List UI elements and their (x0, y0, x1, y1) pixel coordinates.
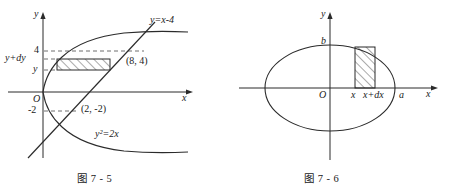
parabola-equation-label: y²=2x (95, 129, 119, 139)
line-y-equals-x-minus-4 (28, 22, 155, 158)
point-2-minus-2-label: (2, -2) (81, 104, 106, 114)
figure-pair: y x O 4 y+dy y -2 y=x-4 y²=2x (8, 4) (2,… (0, 0, 451, 193)
point-8-4-label: (8, 4) (126, 56, 148, 66)
figure-7-6: y x O b a x x+dx 图 7 - 6 (225, 0, 451, 193)
origin-label: O (319, 90, 326, 100)
y-axis (327, 12, 332, 160)
x-tick-a: a (399, 90, 404, 100)
y-tick-b: b (321, 36, 326, 46)
x-axis-label: x (182, 93, 186, 103)
y-axis-label: y (321, 9, 325, 19)
x-tick-x-plus-dx: x+dx (363, 90, 384, 100)
y-tick-4: 4 (34, 45, 39, 55)
hatched-strip-vertical (355, 47, 375, 88)
origin-label: O (33, 94, 40, 104)
figure-7-5: y x O 4 y+dy y -2 y=x-4 y²=2x (8, 4) (2,… (0, 0, 225, 193)
y-tick-y-plus-dy: y+dy (5, 53, 26, 63)
x-tick-x: x (351, 90, 355, 100)
y-tick-y: y (33, 64, 37, 74)
x-axis-label: x (426, 89, 430, 99)
line-equation-label: y=x-4 (150, 15, 174, 25)
y-axis-label: y (34, 9, 38, 19)
figure-7-6-canvas (225, 0, 451, 193)
figure-7-6-caption: 图 7 - 6 (304, 170, 339, 185)
figure-7-5-caption: 图 7 - 5 (77, 170, 112, 185)
x-axis (239, 85, 438, 90)
y-tick-minus-2: -2 (28, 105, 36, 115)
hatched-strip-horizontal (57, 59, 110, 70)
parabola-lower-branch (43, 92, 188, 153)
